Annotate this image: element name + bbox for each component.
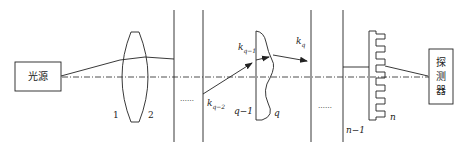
optical-diagram: 光源 1 2 …… kq−2 kq−1 q−1 q kq …… n−1 n 探 … (0, 0, 467, 149)
freeform-element (256, 31, 274, 120)
k-q-label: kq (296, 36, 305, 49)
lens-surface-2-label: 2 (148, 110, 154, 120)
ray-k-q-minus-1 (256, 57, 269, 60)
light-ray-1 (61, 57, 174, 76)
ellipsis-2: …… (318, 102, 332, 110)
detector-label-1: 探 (436, 56, 446, 68)
surface-n-label: n (390, 112, 396, 122)
surface-q-minus-1-label: q−1 (234, 106, 253, 116)
detector-label-2: 测 (436, 70, 446, 82)
detector-label-3: 器 (436, 85, 446, 96)
ray-k-q-minus-2 (203, 63, 252, 94)
k-q-minus-1-label: kq−1 (238, 42, 256, 55)
grating-element (369, 31, 385, 120)
lens-surface-1-label: 1 (113, 110, 119, 120)
detector-box: 探 测 器 (429, 49, 453, 104)
k-q-minus-2-label: kq−2 (207, 98, 225, 111)
light-source-box: 光源 (15, 62, 61, 91)
ray-to-detector (385, 66, 428, 76)
surface-n-minus-1-label: n−1 (346, 125, 365, 135)
light-source-label: 光源 (28, 70, 48, 82)
ellipsis-1: …… (180, 95, 194, 103)
ray-k-q (273, 55, 307, 61)
surface-q-label: q (274, 108, 280, 118)
